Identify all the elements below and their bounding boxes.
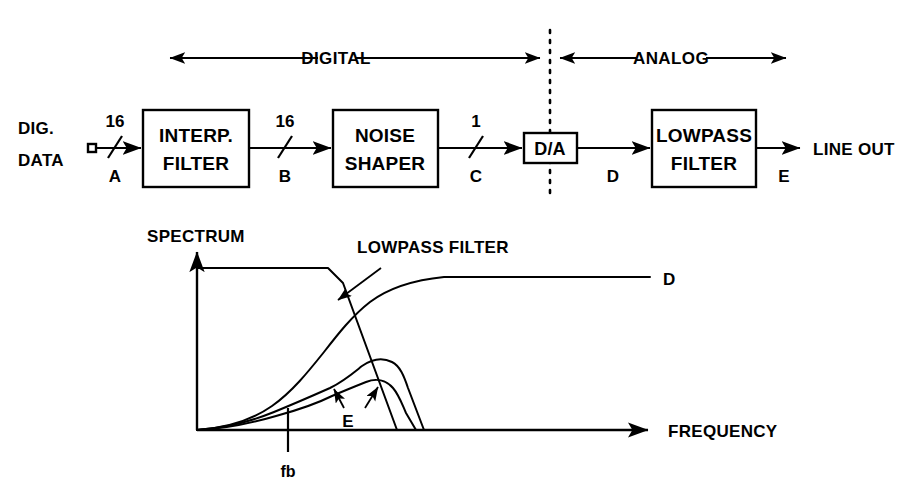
bus-width-c: 1 <box>471 112 480 131</box>
input-label-line1: DIG. <box>18 119 54 138</box>
domain-label-analog: ANALOG <box>633 49 709 68</box>
chart-annotation-d: D <box>663 270 676 289</box>
block-noise-shaper <box>333 110 438 187</box>
curve-d-spectrum <box>197 277 650 430</box>
block-da-converter-label: D/A <box>534 139 566 159</box>
chart-annotation-lowpass-filter: LOWPASS FILTER <box>357 238 509 257</box>
block-lowpass-filter-line2: FILTER <box>671 153 737 174</box>
node-label-d: D <box>607 167 619 186</box>
diagram-canvas: DIGITAL ANALOG DIG. DATA 16 A INTERP. FI… <box>0 0 923 497</box>
node-label-a: A <box>109 167 121 186</box>
bus-width-b: 16 <box>276 112 295 131</box>
node-label-e: E <box>778 167 789 186</box>
block-noise-shaper-line2: SHAPER <box>345 153 425 174</box>
block-lowpass-filter <box>652 110 756 187</box>
chart-tick-label-fb: fb <box>280 463 295 480</box>
output-label-line-out: LINE OUT <box>813 140 895 159</box>
chart-annotation-arrow-e-right <box>365 387 378 408</box>
chart-annotation-e: E <box>342 412 354 431</box>
bus-width-a: 16 <box>106 112 125 131</box>
block-interp-filter <box>143 110 249 187</box>
block-interp-filter-line1: INTERP. <box>159 125 233 146</box>
node-label-b: B <box>279 167 291 186</box>
chart-ylabel: SPECTRUM <box>147 227 245 246</box>
domain-label-digital: DIGITAL <box>301 49 371 68</box>
input-label-line2: DATA <box>18 151 64 170</box>
block-interp-filter-line2: FILTER <box>163 153 229 174</box>
figure-root: DIGITAL ANALOG DIG. DATA 16 A INTERP. FI… <box>0 0 923 497</box>
chart-annotation-arrow-lowpass <box>338 268 381 300</box>
block-lowpass-filter-line1: LOWPASS <box>656 125 752 146</box>
chart-xlabel: FREQUENCY <box>668 422 778 441</box>
node-label-c: C <box>470 167 482 186</box>
input-terminal-square <box>88 144 96 152</box>
block-noise-shaper-line1: NOISE <box>355 125 415 146</box>
curve-e-lower <box>197 380 416 430</box>
